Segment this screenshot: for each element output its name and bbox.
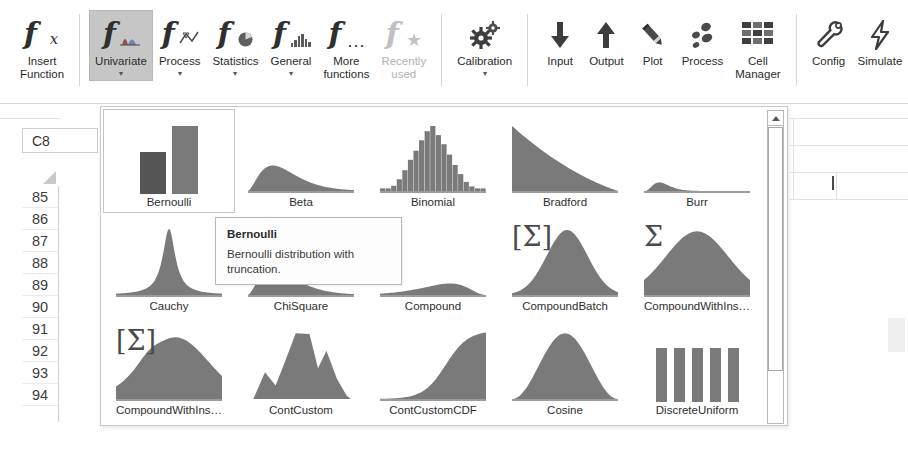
distribution-thumbnail xyxy=(510,120,620,194)
process-label: Process xyxy=(159,55,201,68)
select-all-corner[interactable] xyxy=(38,168,56,184)
row-header[interactable]: 86 xyxy=(22,208,58,230)
gallery-tile-compoundbatch[interactable]: [Σ]CompoundBatch xyxy=(499,213,631,317)
row-header[interactable]: 85 xyxy=(22,186,58,208)
gallery-tile-label: ContCustom xyxy=(269,403,333,417)
gallery-scrollbar[interactable] xyxy=(767,110,784,424)
arrow-down-icon xyxy=(549,15,571,55)
row-header[interactable]: 92 xyxy=(22,340,58,362)
gallery-tile-compoundwithins[interactable]: ΣCompoundWithIns… xyxy=(631,213,763,317)
ribbon-group-tools: Config Simulate xyxy=(806,10,908,96)
gallery-tile-beta[interactable]: Beta xyxy=(235,109,367,213)
row-header[interactable]: 89 xyxy=(22,274,58,296)
grid-line xyxy=(790,172,908,173)
chevron-down-icon[interactable]: ▾ xyxy=(233,69,237,78)
tooltip-title: Bernoulli xyxy=(227,227,390,242)
grid-line xyxy=(0,118,60,119)
chevron-down-icon[interactable]: ▾ xyxy=(178,69,182,78)
tooltip-body: Bernoulli distribution with truncation. xyxy=(227,247,390,277)
plot-button[interactable]: Plot xyxy=(630,10,676,71)
arrow-up-icon xyxy=(595,15,617,55)
gears-icon xyxy=(468,15,502,55)
gallery-tile-label: Compound xyxy=(405,299,461,313)
ribbon-separator xyxy=(796,14,797,86)
gallery-tile-binomial[interactable]: Binomial xyxy=(367,109,499,213)
row-header-divider xyxy=(58,186,59,422)
distribution-thumbnail xyxy=(642,328,752,402)
config-button[interactable]: Config xyxy=(806,10,852,71)
cell-manager-button[interactable]: Cell Manager xyxy=(729,10,786,83)
gallery-tile-label: CompoundBatch xyxy=(522,299,608,313)
gallery-tile-label: Burr xyxy=(686,195,708,209)
general-button[interactable]: f General ▾ xyxy=(264,10,317,81)
gallery-tile-bradford[interactable]: Bradford xyxy=(499,109,631,213)
simulate-button[interactable]: Simulate xyxy=(852,10,908,71)
distribution-thumbnail xyxy=(642,120,752,194)
gallery-tile-label: ChiSquare xyxy=(274,299,328,313)
cell-manager-label: Cell Manager xyxy=(735,55,780,80)
gallery-tile-label: Cosine xyxy=(547,403,583,417)
chevron-down-icon[interactable]: ▾ xyxy=(119,69,123,78)
sigma-icon: [Σ] xyxy=(512,222,552,252)
scroll-up-arrow-icon[interactable] xyxy=(768,111,783,126)
recently-used-button[interactable]: f ★ Recently used xyxy=(375,10,432,83)
gallery-tile-burr[interactable]: Burr xyxy=(631,109,763,213)
thumb-bars xyxy=(656,332,739,402)
scatter-icon xyxy=(687,15,717,55)
row-header[interactable]: 88 xyxy=(22,252,58,274)
gallery-tile-label: Binomial xyxy=(411,195,455,209)
fx-more-icon: f … xyxy=(326,15,366,55)
output-button[interactable]: Output xyxy=(583,10,630,71)
gallery-tile-discreteuniform[interactable]: DiscreteUniform xyxy=(631,317,763,421)
sigma-icon: [Σ] xyxy=(116,326,156,356)
grid-line xyxy=(790,118,908,119)
ribbon-group-insert: f x Insert Function xyxy=(14,10,70,96)
gallery-tile-label: DiscreteUniform xyxy=(656,403,738,417)
input-button[interactable]: Input xyxy=(537,10,583,71)
gallery-tile-contcustom[interactable]: ContCustom xyxy=(235,317,367,421)
statistics-button[interactable]: f Statistics ▾ xyxy=(206,10,264,81)
univariate-button[interactable]: f Univariate ▾ xyxy=(89,10,153,81)
grid-line xyxy=(836,172,837,200)
distribution-thumbnail xyxy=(114,120,224,194)
distribution-thumbnail xyxy=(246,120,356,194)
chevron-down-icon[interactable]: ▾ xyxy=(289,69,293,78)
scrollbar-lower-extension xyxy=(888,318,905,352)
general-label: General xyxy=(270,55,311,68)
row-header[interactable]: 90 xyxy=(22,296,58,318)
more-functions-button[interactable]: f … More functions xyxy=(317,10,375,83)
ribbon-separator xyxy=(441,14,442,86)
name-box[interactable]: C8 xyxy=(22,128,98,153)
gallery-tile-label: ContCustomCDF xyxy=(389,403,477,417)
gallery-tile-compoundwithins[interactable]: [Σ]CompoundWithIns… xyxy=(103,317,235,421)
scrollbar-thumb[interactable] xyxy=(768,127,783,371)
scrollbar-track[interactable] xyxy=(768,372,783,423)
recently-used-label: Recently used xyxy=(381,55,426,80)
more-functions-label: More functions xyxy=(323,55,369,80)
gallery-tile-cosine[interactable]: Cosine xyxy=(499,317,631,421)
grid-line xyxy=(793,118,794,200)
fx-process-icon: f xyxy=(160,15,200,55)
fx-recent-icon: f ★ xyxy=(384,15,424,55)
simulate-label: Simulate xyxy=(858,55,903,68)
univariate-distribution-gallery: BernoulliBetaBinomialBradfordBurrCauchyC… xyxy=(100,106,788,426)
insert-function-button[interactable]: f x Insert Function xyxy=(14,10,70,83)
row-header[interactable]: 91 xyxy=(22,318,58,340)
row-header[interactable]: 93 xyxy=(22,362,58,384)
ribbon-group-data: Input Output xyxy=(537,10,786,96)
process-button[interactable]: f Process ▾ xyxy=(153,10,207,81)
row-header[interactable]: 87 xyxy=(22,230,58,252)
calibration-button[interactable]: Calibration ▾ xyxy=(451,10,518,81)
row-header[interactable]: 94 xyxy=(22,384,58,406)
excel-addin-window: f x Insert Function f xyxy=(0,0,908,450)
fx-icon: f x xyxy=(22,15,62,55)
fx-general-icon: f xyxy=(271,15,311,55)
gallery-tile-label: Bradford xyxy=(543,195,587,209)
distribution-thumbnail xyxy=(114,224,224,298)
statistics-label: Statistics xyxy=(212,55,258,68)
chevron-down-icon[interactable]: ▾ xyxy=(483,69,487,78)
config-label: Config xyxy=(812,55,845,68)
gallery-tile-bernoulli[interactable]: Bernoulli xyxy=(103,109,235,213)
gallery-tile-contcustomcdf[interactable]: ContCustomCDF xyxy=(367,317,499,421)
process-data-button[interactable]: Process xyxy=(676,10,730,71)
